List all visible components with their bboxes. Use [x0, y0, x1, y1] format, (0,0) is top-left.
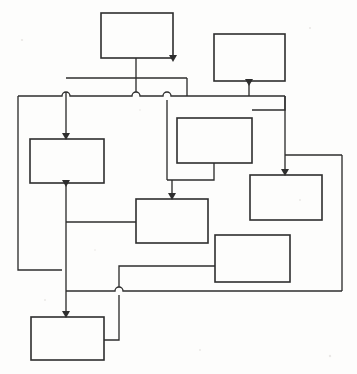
node-n3-rect[interactable] [30, 139, 104, 183]
edge-n4-to-n6 [167, 163, 214, 195]
edge-lower-bus [66, 287, 342, 291]
node-n7[interactable] [215, 235, 290, 282]
node-n1[interactable] [101, 13, 173, 58]
node-n7-rect[interactable] [215, 235, 290, 282]
node-n6-rect[interactable] [136, 199, 208, 243]
edge-n7-feedback-to-n8 [119, 266, 215, 287]
node-n5[interactable] [250, 175, 322, 220]
edge-n7-feedback-down [104, 295, 119, 340]
arrowhead-layer [62, 55, 289, 318]
node-layer [30, 13, 322, 360]
node-n5-rect[interactable] [250, 175, 322, 220]
node-n1-rect[interactable] [101, 13, 173, 58]
node-n4[interactable] [177, 118, 252, 163]
node-n2[interactable] [214, 34, 285, 81]
node-n4-rect[interactable] [177, 118, 252, 163]
node-n6[interactable] [136, 199, 208, 243]
node-n8[interactable] [31, 317, 104, 360]
node-n2-rect[interactable] [214, 34, 285, 81]
node-n8-rect[interactable] [31, 317, 104, 360]
node-n3[interactable] [30, 139, 104, 183]
diagram-svg [0, 0, 357, 374]
diagram-canvas [0, 0, 357, 374]
edge-n4-right-drop [252, 96, 285, 110]
edge-main-bus [18, 92, 285, 96]
arrowhead-n2-bottom-out [245, 79, 253, 86]
